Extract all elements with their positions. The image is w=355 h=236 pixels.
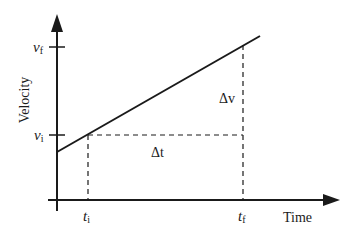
- delta-t-label: Δt: [151, 145, 164, 160]
- x-axis-arrow-icon: [323, 194, 340, 206]
- velocity-time-diagram: Velocity Time vf vi ti tf Δv Δt: [0, 0, 355, 236]
- vi-label: vi: [34, 127, 44, 144]
- ti-label: ti: [83, 208, 90, 225]
- tf-label: tf: [238, 208, 246, 225]
- y-axis-arrow-icon: [51, 14, 63, 32]
- delta-v-label: Δv: [219, 91, 235, 106]
- diagram-canvas: Velocity Time vf vi ti tf Δv Δt: [0, 0, 355, 236]
- vf-label: vf: [33, 39, 44, 56]
- y-axis-label: Velocity: [17, 77, 32, 124]
- x-axis-label: Time: [283, 210, 312, 225]
